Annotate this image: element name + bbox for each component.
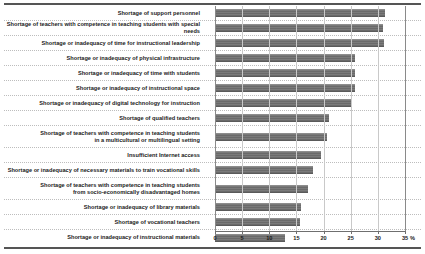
row-plot-area <box>205 148 421 162</box>
row-plot-area <box>205 66 421 80</box>
chart-row: Shortage or inadequacy of time with stud… <box>4 66 421 81</box>
category-label: Shortage or inadequacy of physical infra… <box>4 55 205 62</box>
x-axis-tick <box>215 231 216 234</box>
row-plot-area <box>205 51 421 65</box>
category-label: Shortage or inadequacy of library materi… <box>4 204 205 211</box>
chart-row: Shortage of qualified teachers <box>4 111 421 126</box>
bar <box>215 185 308 193</box>
category-label: Shortage or inadequacy of instructional … <box>4 234 205 241</box>
x-axis-tick-label: 5 <box>241 235 244 241</box>
category-label: Shortage of teachers with competence in … <box>4 130 205 143</box>
x-axis-tick <box>242 231 243 234</box>
chart-row: Shortage or inadequacy of time for instr… <box>4 36 421 51</box>
x-axis-tick-label: 30 <box>375 235 381 241</box>
category-label: Shortage or inadequacy of digital techno… <box>4 100 205 107</box>
category-label: Shortage or inadequacy of instructional … <box>4 85 205 92</box>
bar <box>215 133 327 141</box>
chart-row: Shortage or inadequacy of instructional … <box>4 81 421 96</box>
x-axis-tick <box>351 231 352 234</box>
chart-row: Shortage of teachers with competence in … <box>4 21 421 36</box>
chart-rows: Shortage of support personnelShortage of… <box>4 6 421 231</box>
chart-row: Shortage of teachers with competence in … <box>4 126 421 148</box>
bar <box>215 9 385 17</box>
x-axis-line <box>215 231 405 232</box>
x-axis-tick <box>405 231 406 234</box>
category-label: Shortage or inadequacy of necessary mate… <box>4 167 205 174</box>
category-label: Shortage of qualified teachers <box>4 115 205 122</box>
row-plot-area <box>205 163 421 177</box>
x-axis-tick <box>269 231 270 234</box>
bar <box>215 54 355 62</box>
x-axis-tick <box>378 231 379 234</box>
row-plot-area <box>205 96 421 110</box>
category-label: Shortage of teachers with competence in … <box>4 182 205 195</box>
category-label: Shortage of support personnel <box>4 10 205 17</box>
row-plot-area <box>205 21 421 35</box>
row-plot-area <box>205 126 421 147</box>
x-axis-tick <box>324 231 325 234</box>
x-axis-tick-label: 25 <box>348 235 354 241</box>
bar <box>215 99 351 107</box>
bar <box>215 114 329 122</box>
x-axis-unit-label: % <box>410 235 415 241</box>
row-plot-area <box>205 81 421 95</box>
row-plot-area <box>205 200 421 214</box>
chart-bottom-rule <box>4 247 421 249</box>
bar-chart: Shortage of support personnelShortage of… <box>0 0 425 254</box>
x-axis-tick <box>296 231 297 234</box>
chart-row: Shortage of support personnel <box>4 6 421 21</box>
x-axis-tick-label: 20 <box>320 235 326 241</box>
row-plot-area <box>205 178 421 199</box>
row-plot-area <box>205 215 421 229</box>
x-axis-tick-label: 0 <box>213 235 216 241</box>
category-label: Insufficient Internet access <box>4 152 205 159</box>
x-axis-tick-label: 10 <box>266 235 272 241</box>
row-plot-area <box>205 6 421 20</box>
bar <box>215 39 384 47</box>
row-plot-area <box>205 111 421 125</box>
category-label: Shortage or inadequacy of time with stud… <box>4 70 205 77</box>
row-plot-area <box>205 36 421 50</box>
bar <box>215 218 300 226</box>
bar <box>215 166 313 174</box>
chart-row: Shortage or inadequacy of physical infra… <box>4 51 421 66</box>
chart-row: Insufficient Internet access <box>4 148 421 163</box>
x-axis-tick-label: 15 <box>293 235 299 241</box>
chart-row: Shortage of teachers with competence in … <box>4 178 421 200</box>
x-axis-tick-label: 35 <box>402 235 408 241</box>
bar <box>215 151 321 159</box>
category-label: Shortage or inadequacy of time for instr… <box>4 40 205 47</box>
chart-top-rule <box>4 3 421 5</box>
bar <box>215 203 301 211</box>
chart-row: Shortage of vocational teachers <box>4 215 421 230</box>
category-label: Shortage of vocational teachers <box>4 219 205 226</box>
chart-row: Shortage or inadequacy of necessary mate… <box>4 163 421 178</box>
bar <box>215 69 355 77</box>
bar <box>215 24 383 32</box>
bar <box>215 84 355 92</box>
category-label: Shortage of teachers with competence in … <box>4 21 205 34</box>
chart-row: Shortage or inadequacy of library materi… <box>4 200 421 215</box>
chart-row: Shortage or inadequacy of digital techno… <box>4 96 421 111</box>
